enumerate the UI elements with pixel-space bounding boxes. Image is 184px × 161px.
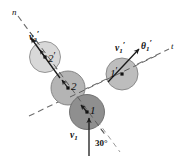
v1-label: v1 — [70, 131, 78, 142]
v1-subscript: 1 — [74, 134, 78, 142]
v1-prime-label: v1′ — [115, 41, 125, 55]
figure-canvas: n t v2′ v1′ v1 θ1′ 30° 2′ 2 1 1′ — [0, 0, 184, 161]
v1-prime-mark: ′ — [123, 40, 126, 50]
t-axis-label: t — [171, 42, 174, 51]
ball-2-prime-label: 2′ — [48, 51, 56, 64]
ball-1-prime-mark: ′ — [116, 65, 118, 76]
n-axis-label: n — [12, 8, 17, 17]
ball-2-prime-mark: ′ — [54, 50, 56, 61]
v2-prime-mark: ′ — [37, 29, 40, 39]
ball-1-prime-label: 1′ — [110, 66, 118, 79]
ball-2-number: 2 — [71, 80, 77, 92]
impact-angle-label: 30° — [95, 139, 108, 148]
ball-1-prime-center-dot — [120, 72, 123, 75]
theta1-prime-label: θ1′ — [141, 39, 152, 53]
figure-svg — [0, 0, 184, 161]
ball-1-label: 1 — [90, 105, 96, 116]
theta-prime-mark: ′ — [149, 38, 152, 48]
ball-1-number: 1 — [90, 104, 96, 116]
v2-prime-label: v2′ — [29, 30, 39, 44]
ball-2-label: 2 — [71, 81, 77, 92]
